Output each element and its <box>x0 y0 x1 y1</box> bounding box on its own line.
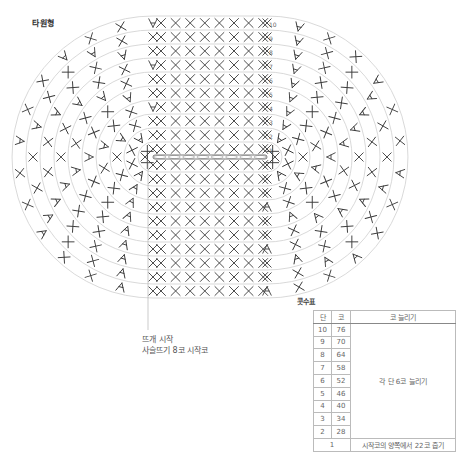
single-crochet-x-icon <box>367 167 377 177</box>
increase-v-icon <box>263 245 271 253</box>
single-crochet-x-icon <box>230 259 239 268</box>
single-crochet-x-icon <box>157 145 166 154</box>
single-crochet-x-icon <box>230 203 239 212</box>
chain-stitch-icon <box>168 155 180 158</box>
single-crochet-x-icon <box>292 133 303 144</box>
single-crochet-x-icon <box>121 78 132 89</box>
single-crochet-x-icon <box>157 103 166 112</box>
single-crochet-x-icon <box>306 196 318 208</box>
single-crochet-x-icon <box>259 231 268 240</box>
single-crochet-x-icon <box>171 217 180 226</box>
chain-stitch-icon <box>197 155 209 158</box>
single-crochet-x-icon <box>215 245 224 254</box>
single-crochet-x-icon <box>88 127 99 138</box>
single-crochet-x-icon <box>329 112 340 123</box>
single-crochet-x-icon <box>157 117 166 126</box>
single-crochet-x-icon <box>200 19 209 28</box>
single-crochet-x-icon <box>230 103 239 112</box>
single-crochet-x-icon <box>157 89 166 98</box>
single-crochet-x-icon <box>319 62 331 74</box>
single-crochet-x-icon <box>186 161 195 170</box>
increase-v-icon <box>378 183 388 193</box>
single-crochet-x-icon <box>294 282 304 292</box>
round-cell: 4 <box>314 400 332 413</box>
single-crochet-x-icon <box>43 91 54 102</box>
single-crochet-x-icon <box>336 97 348 109</box>
single-crochet-x-icon <box>88 176 99 187</box>
increase-v-icon <box>279 120 290 131</box>
single-crochet-x-icon <box>230 145 239 154</box>
round-label: 2 <box>269 133 273 140</box>
single-crochet-x-icon <box>230 231 239 240</box>
header-stitches: 코 <box>332 311 351 324</box>
increase-v-icon <box>294 22 304 32</box>
increase-v-icon <box>43 211 54 222</box>
single-crochet-x-icon <box>171 231 180 240</box>
single-crochet-x-icon <box>157 273 166 282</box>
increase-v-icon <box>395 168 404 177</box>
single-crochet-x-icon <box>200 161 209 170</box>
single-crochet-x-icon <box>259 117 268 126</box>
increase-v-icon <box>51 107 62 118</box>
increase-v-icon <box>292 253 302 263</box>
single-crochet-x-icon <box>341 220 353 232</box>
single-crochet-x-icon <box>93 77 105 89</box>
single-crochet-x-icon <box>186 61 195 70</box>
single-crochet-x-icon <box>230 131 239 140</box>
single-crochet-x-icon <box>71 139 81 149</box>
round-label: 5 <box>269 91 273 98</box>
single-crochet-x-icon <box>99 163 109 173</box>
increase-v-icon <box>73 97 85 109</box>
round-cell: 8 <box>314 349 332 362</box>
single-crochet-x-icon <box>116 22 126 32</box>
chain-stitch-icon <box>183 155 195 158</box>
single-crochet-x-icon <box>283 159 294 170</box>
start-note-line2: 사슬뜨기 8코 시작코 <box>142 345 208 356</box>
single-crochet-x-icon <box>149 33 157 41</box>
round-label: 6 <box>269 77 273 84</box>
single-crochet-x-icon <box>283 145 294 156</box>
single-crochet-x-icon <box>244 75 253 84</box>
single-crochet-x-icon <box>263 259 271 267</box>
increase-v-icon <box>311 211 323 223</box>
single-crochet-x-icon <box>87 255 98 266</box>
stitch-cell: 76 <box>332 323 351 336</box>
increase-v-icon <box>321 255 332 266</box>
single-crochet-x-icon <box>365 211 376 222</box>
single-crochet-x-icon <box>37 75 49 87</box>
increase-v-icon <box>290 64 301 75</box>
single-crochet-x-icon <box>157 287 166 296</box>
single-crochet-x-icon <box>215 217 224 226</box>
increase-v-icon <box>15 136 24 145</box>
round-label: 1 <box>269 147 273 154</box>
single-crochet-x-icon <box>244 273 253 282</box>
round-cell: 7 <box>314 362 332 375</box>
single-crochet-x-icon <box>200 75 209 84</box>
single-crochet-x-icon <box>244 231 253 240</box>
increase-v-icon <box>350 251 362 263</box>
single-crochet-x-icon <box>230 217 239 226</box>
single-crochet-x-icon <box>67 220 79 232</box>
single-crochet-x-icon <box>378 121 388 131</box>
single-crochet-x-icon <box>80 190 91 201</box>
single-crochet-x-icon <box>157 245 166 254</box>
stitch-cell: 52 <box>332 374 351 387</box>
stitch-count-table-title: 콧수표 <box>297 296 315 306</box>
single-crochet-x-icon <box>171 89 180 98</box>
single-crochet-x-icon <box>97 211 109 223</box>
single-crochet-x-icon <box>215 19 224 28</box>
single-crochet-x-icon <box>171 131 180 140</box>
single-crochet-x-icon <box>371 227 383 239</box>
single-crochet-x-icon <box>200 61 209 70</box>
increase-v-icon <box>358 107 369 118</box>
single-crochet-x-icon <box>171 259 180 268</box>
single-crochet-x-icon <box>215 47 224 56</box>
round-guide <box>68 72 352 242</box>
single-crochet-x-icon <box>171 273 180 282</box>
single-crochet-x-icon <box>93 226 105 238</box>
single-crochet-x-icon <box>259 47 268 56</box>
single-crochet-x-icon <box>299 153 307 161</box>
increase-v-icon <box>263 203 271 211</box>
single-crochet-x-icon <box>300 182 312 194</box>
single-crochet-x-icon <box>157 19 166 28</box>
